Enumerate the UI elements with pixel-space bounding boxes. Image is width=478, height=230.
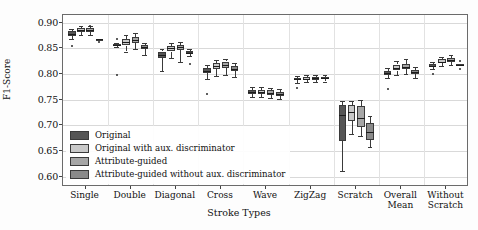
y-tick-label: 0.85 bbox=[18, 42, 58, 53]
outlier-point bbox=[206, 93, 208, 95]
whisker-cap-upper bbox=[413, 67, 418, 68]
legend-item[interactable]: Original bbox=[70, 129, 285, 141]
median-line bbox=[429, 66, 437, 67]
outlier-point bbox=[116, 38, 118, 40]
whisker-cap-upper bbox=[169, 43, 174, 44]
y-axis-label: F1-Score bbox=[2, 59, 12, 100]
median-line bbox=[411, 72, 419, 73]
x-tick-mark bbox=[220, 186, 221, 189]
y-tick-label: 0.60 bbox=[18, 170, 58, 181]
median-line bbox=[68, 34, 76, 35]
whisker-cap-upper bbox=[214, 60, 219, 61]
box-iqr bbox=[348, 105, 356, 120]
whisker-cap-lower bbox=[413, 78, 418, 79]
x-tick-mark bbox=[310, 186, 311, 189]
median-line bbox=[357, 118, 365, 119]
median-line bbox=[267, 93, 275, 94]
outlier-point bbox=[116, 74, 118, 76]
whisker-cap-lower bbox=[88, 35, 93, 36]
whisker-cap-upper bbox=[277, 89, 282, 90]
box-iqr bbox=[339, 105, 347, 140]
whisker-cap-upper bbox=[133, 33, 138, 34]
outlier-point bbox=[459, 68, 461, 70]
legend-swatch bbox=[70, 170, 89, 179]
median-line bbox=[384, 73, 392, 74]
whisker-cap-lower bbox=[169, 58, 174, 59]
y-tick-label: 0.65 bbox=[18, 145, 58, 156]
median-line bbox=[303, 79, 311, 80]
median-line bbox=[276, 94, 284, 95]
whisker-cap-upper bbox=[160, 49, 165, 50]
whisker-cap-lower bbox=[323, 82, 328, 83]
x-tick-label: Wave bbox=[253, 190, 277, 200]
x-tick-mark bbox=[445, 186, 446, 189]
median-line bbox=[402, 67, 410, 68]
whisker-cap-upper bbox=[142, 43, 147, 44]
gridline-vertical bbox=[424, 15, 425, 185]
whisker-lower bbox=[361, 127, 362, 137]
whisker-cap-lower bbox=[430, 69, 435, 70]
whisker-lower bbox=[226, 68, 227, 75]
whisker-cap-upper bbox=[250, 87, 255, 88]
outlier-point bbox=[189, 63, 191, 65]
legend-label: Attribute-guided bbox=[95, 156, 167, 166]
whisker-cap-upper bbox=[124, 35, 129, 36]
gridline-horizontal bbox=[63, 48, 467, 49]
median-line bbox=[321, 78, 329, 79]
median-line bbox=[312, 78, 320, 79]
median-line bbox=[86, 30, 94, 31]
whisker-lower bbox=[216, 69, 217, 76]
whisker-cap-upper bbox=[449, 55, 454, 56]
whisker-cap-upper bbox=[205, 65, 210, 66]
whisker-cap-lower bbox=[214, 76, 219, 77]
x-tick-label: Scratch bbox=[338, 190, 373, 200]
whisker-cap-upper bbox=[349, 101, 354, 102]
legend-swatch bbox=[70, 131, 89, 140]
whisker-cap-upper bbox=[368, 116, 373, 117]
median-line bbox=[203, 71, 211, 72]
x-axis-label: Stroke Types bbox=[0, 207, 478, 218]
legend-label: Original bbox=[95, 130, 131, 140]
whisker-cap-lower bbox=[142, 55, 147, 56]
legend-item[interactable]: Original with aux. discriminator bbox=[70, 142, 285, 154]
whisker-cap-lower bbox=[232, 77, 237, 78]
median-line bbox=[158, 55, 166, 56]
y-tick-label: 0.75 bbox=[18, 93, 58, 104]
legend-swatch bbox=[70, 144, 89, 153]
gridline-vertical bbox=[379, 15, 380, 185]
x-tick-label: Diagonal bbox=[154, 190, 195, 200]
whisker-cap-lower bbox=[368, 147, 373, 148]
y-tick-label: 0.80 bbox=[18, 68, 58, 79]
whisker-cap-lower bbox=[160, 71, 165, 72]
whisker-cap-upper bbox=[304, 75, 309, 76]
whisker-cap-lower bbox=[358, 136, 363, 137]
median-line bbox=[366, 132, 374, 133]
whisker-cap-lower bbox=[268, 98, 273, 99]
x-tick-label: Double bbox=[113, 190, 145, 200]
whisker-cap-lower bbox=[69, 39, 74, 40]
median-line bbox=[122, 42, 130, 43]
median-line bbox=[132, 40, 140, 41]
whisker-cap-upper bbox=[69, 29, 74, 30]
gridline-vertical bbox=[334, 15, 335, 185]
whisker-cap-upper bbox=[178, 42, 183, 43]
whisker-cap-upper bbox=[404, 59, 409, 60]
whisker-lower bbox=[370, 140, 371, 147]
whisker-cap-lower bbox=[178, 62, 183, 63]
gridline-horizontal bbox=[63, 100, 467, 101]
box-iqr bbox=[357, 106, 365, 126]
whisker-cap-lower bbox=[187, 56, 192, 57]
whisker-lower bbox=[126, 46, 127, 52]
x-tick-label: ZigZag bbox=[294, 190, 326, 200]
median-line bbox=[258, 92, 266, 93]
whisker-cap-lower bbox=[124, 52, 129, 53]
outlier-point bbox=[432, 73, 434, 75]
median-line bbox=[222, 65, 230, 66]
legend-item[interactable]: Attribute-guided bbox=[70, 155, 285, 167]
whisker-cap-upper bbox=[268, 88, 273, 89]
x-tick-label: Single bbox=[70, 190, 99, 200]
median-line bbox=[248, 92, 256, 93]
whisker-cap-upper bbox=[223, 59, 228, 60]
median-line bbox=[141, 47, 149, 48]
legend-item[interactable]: Attribute-guided without aux. discrimina… bbox=[70, 168, 285, 180]
